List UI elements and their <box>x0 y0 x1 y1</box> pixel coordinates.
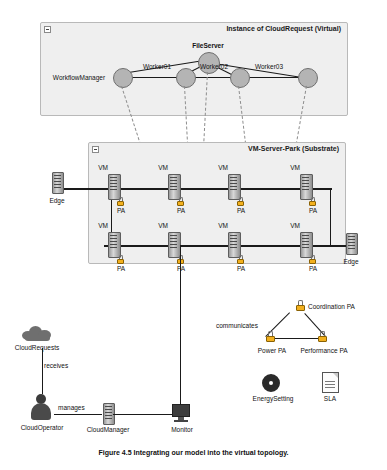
monitor-label: Monitor <box>166 426 198 433</box>
edge-label-right: Edge <box>336 258 366 265</box>
lock-icon-pa-4[interactable] <box>309 197 316 206</box>
coordination-pa-label: Coordination PA <box>308 303 368 310</box>
edge-node-right-icon[interactable] <box>346 233 358 255</box>
pa-label-4: PA <box>304 207 322 214</box>
cloudmanager-label: CloudManager <box>86 426 130 433</box>
node-workflowmanager-label: WorkflowManager <box>48 74 110 81</box>
pa-label-6: PA <box>172 265 190 272</box>
node-worker01[interactable] <box>176 68 196 88</box>
energysetting-label: EnergySetting <box>244 395 302 402</box>
lock-icon-pa-7[interactable] <box>237 255 244 264</box>
figure-caption: Figure 4.5 Integrating our model into th… <box>16 449 371 458</box>
pa-label-7: PA <box>232 265 250 272</box>
vm-label-3: VM <box>214 164 232 171</box>
lock-icon-coordination-pa[interactable] <box>296 300 305 311</box>
power-pa-label: Power PA <box>252 347 292 354</box>
node-workflowmanager[interactable] <box>113 68 133 88</box>
manages-label: manages <box>58 404 98 411</box>
diagram-canvas: Instance of CloudRequest (Virtual) FileS… <box>0 0 387 470</box>
lock-icon-power-pa[interactable] <box>266 331 275 342</box>
vm-label-8: VM <box>286 222 304 229</box>
pa-label-2: PA <box>172 207 190 214</box>
collapse-box-icon[interactable] <box>92 146 99 153</box>
receives-label: receives <box>44 362 78 369</box>
node-worker01-label: Worker01 <box>136 63 178 70</box>
communicates-label: communicates <box>216 322 266 329</box>
cloud-icon[interactable] <box>22 324 52 340</box>
document-icon[interactable] <box>322 372 339 393</box>
node-worker02-label: Worker02 <box>193 63 235 70</box>
pa-label-3: PA <box>232 207 250 214</box>
cloudoperator-label: CloudOperator <box>14 424 70 431</box>
lock-icon-pa-2[interactable] <box>177 197 184 206</box>
energy-donut-icon[interactable] <box>262 374 280 392</box>
node-worker02[interactable] <box>230 68 250 88</box>
lock-icon-performance-pa[interactable] <box>318 331 327 342</box>
lock-icon-pa-3[interactable] <box>237 197 244 206</box>
pa-label-8: PA <box>304 265 322 272</box>
link-power-performance <box>271 338 323 339</box>
vm-label-5: VM <box>94 222 112 229</box>
link-manager-monitor <box>113 414 181 415</box>
edge-label-left: Edge <box>42 197 72 204</box>
vm-label-6: VM <box>154 222 172 229</box>
node-worker03[interactable] <box>298 68 318 88</box>
person-icon-cloudoperator[interactable] <box>30 394 52 420</box>
cloudrequests-label: CloudRequests <box>10 344 64 351</box>
lock-icon-pa-8[interactable] <box>309 255 316 264</box>
sla-label: SLA <box>315 395 345 402</box>
pa-label-5: PA <box>112 265 130 272</box>
bus-connector-right <box>330 188 331 246</box>
collapse-box-icon[interactable] <box>44 26 51 33</box>
trunk-substrate-to-monitor <box>180 245 181 405</box>
monitor-icon[interactable] <box>172 404 190 422</box>
lock-icon-pa-1[interactable] <box>117 197 124 206</box>
node-fileserver-label: FileServer <box>178 42 238 49</box>
vm-label-1: VM <box>94 164 112 171</box>
node-worker03-label: Worker03 <box>248 63 290 70</box>
link-operator-manager <box>54 414 102 415</box>
vm-label-2: VM <box>154 164 172 171</box>
lock-icon-pa-5[interactable] <box>117 255 124 264</box>
panel-virtual-title: Instance of CloudRequest (Virtual) <box>226 25 341 32</box>
link-cloudrequests-operator <box>42 348 43 394</box>
panel-substrate-title: VM-Server-Park (Substrate) <box>248 145 339 152</box>
performance-pa-label: Performance PA <box>298 347 350 354</box>
bus-row1 <box>62 188 332 190</box>
vm-label-7: VM <box>214 222 232 229</box>
pa-label-1: PA <box>112 207 130 214</box>
edge-node-left-icon[interactable] <box>52 172 64 194</box>
link-worker02-worker03 <box>246 77 300 78</box>
vm-label-4: VM <box>286 164 304 171</box>
